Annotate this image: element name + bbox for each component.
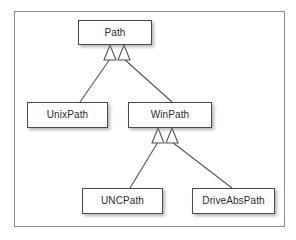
- uml-class-uncpath[interactable]: UNCPath: [82, 188, 163, 214]
- hollow-triangle-arrowhead-icon: [152, 128, 164, 143]
- uml-class-label: DriveAbsPath: [202, 196, 264, 206]
- connector-line: [130, 142, 158, 188]
- uml-class-diagram: Path UnixPath WinPath UNCPath DriveAbsPa…: [0, 0, 296, 240]
- uml-class-winpath[interactable]: WinPath: [128, 102, 212, 128]
- generalization-uncpath-to-winpath: [130, 128, 164, 188]
- uml-class-label: WinPath: [151, 110, 190, 120]
- uml-class-label: UNCPath: [101, 196, 144, 206]
- hollow-triangle-arrowhead-icon: [118, 45, 130, 60]
- generalization-driveabspath-to-winpath: [166, 128, 232, 188]
- hollow-triangle-arrowhead-icon: [166, 128, 178, 143]
- generalization-unixpath-to-path: [80, 45, 116, 102]
- connector-line: [80, 59, 110, 102]
- connector-line: [124, 59, 172, 102]
- uml-class-driveabspath[interactable]: DriveAbsPath: [192, 188, 275, 214]
- generalization-winpath-to-path: [118, 45, 172, 102]
- connector-line: [172, 142, 232, 188]
- uml-class-label: UnixPath: [47, 110, 88, 120]
- uml-class-unixpath[interactable]: UnixPath: [27, 102, 108, 128]
- uml-class-path[interactable]: Path: [78, 20, 152, 45]
- uml-class-label: Path: [105, 28, 126, 38]
- hollow-triangle-arrowhead-icon: [104, 45, 116, 60]
